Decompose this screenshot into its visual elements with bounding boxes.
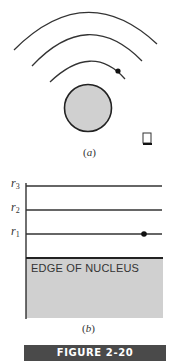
electron-dot-a bbox=[115, 68, 120, 73]
orbit-inner bbox=[50, 61, 125, 82]
level-label-r1: r1 bbox=[11, 224, 20, 239]
caption-a: (a) bbox=[83, 146, 96, 158]
level-label-r3: r3 bbox=[11, 176, 20, 191]
level-label-r2: r2 bbox=[11, 200, 20, 215]
figure-banner: FIGURE 2-20 bbox=[24, 345, 166, 361]
electron-dot-b bbox=[141, 231, 147, 237]
nucleus-circle bbox=[65, 85, 112, 132]
caption-b-close: ) bbox=[91, 322, 95, 334]
caption-b: (b) bbox=[82, 322, 95, 334]
box-glyph-icon bbox=[143, 133, 152, 144]
levels-diagram bbox=[26, 183, 163, 319]
orbit-outer bbox=[14, 12, 157, 50]
nucleus-edge-label: EDGE OF NUCLEUS bbox=[31, 262, 139, 274]
caption-a-close: ) bbox=[92, 146, 96, 158]
figure-graphics bbox=[0, 0, 172, 361]
orbits-diagram bbox=[14, 12, 157, 131]
